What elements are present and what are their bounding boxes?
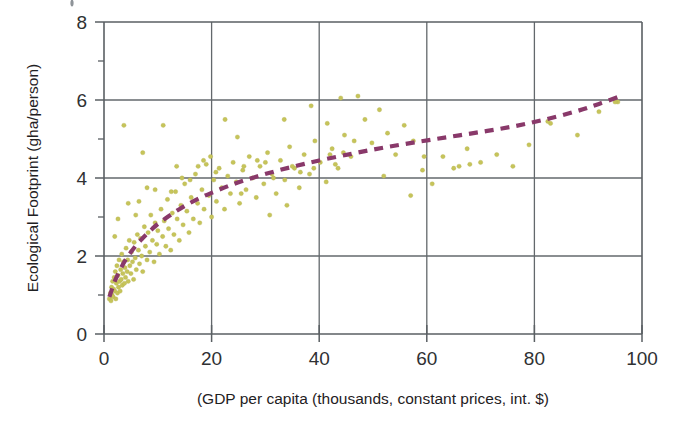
scatter-point (200, 188, 204, 192)
scatter-point (146, 230, 150, 234)
scatter-point (452, 166, 456, 170)
x-tick-label: 40 (309, 348, 330, 369)
scatter-point (136, 248, 140, 252)
scatter-point (312, 166, 316, 170)
scatter-chart-canvas: 020406080100 02468 (GDP per capita (thou… (0, 0, 679, 427)
scatter-point (119, 277, 123, 281)
scatter-point (382, 174, 386, 178)
scatter-point (247, 154, 251, 158)
scatter-point (422, 154, 426, 158)
scatter-point (137, 262, 141, 266)
scatter-point (128, 264, 132, 268)
scatter-point (134, 267, 138, 271)
scatter-point (457, 164, 461, 168)
scatter-point (254, 195, 258, 199)
scatter-point (177, 238, 181, 242)
scatter-point (148, 250, 152, 254)
scatter-point (185, 209, 189, 213)
scatter-point (356, 94, 360, 98)
y-tick-label: 6 (76, 90, 87, 111)
scatter-point (114, 297, 118, 301)
scatter-point (153, 188, 157, 192)
scatter-point (126, 279, 130, 283)
scatter-point (132, 240, 136, 244)
y-axis-title: Ecological Footprint (gha/person) (24, 64, 41, 292)
scatter-point (131, 277, 135, 281)
scatter-point (127, 238, 131, 242)
scatter-point (180, 176, 184, 180)
scatter-point (140, 254, 144, 258)
scatter-point (223, 117, 227, 121)
x-tick-label: 20 (201, 348, 222, 369)
chart-figure: 020406080100 02468 (GDP per capita (thou… (0, 0, 679, 427)
scatter-point (133, 256, 137, 260)
scatter-point (597, 110, 601, 114)
scatter-point (198, 221, 202, 225)
scatter-point (115, 264, 119, 268)
scatter-point (204, 162, 208, 166)
scatter-point (402, 123, 406, 127)
scatter-point (231, 160, 235, 164)
scatter-point (228, 191, 232, 195)
scatter-point (129, 271, 133, 275)
scatter-point (134, 213, 138, 217)
scatter-point (298, 170, 302, 174)
scatter-point (263, 160, 267, 164)
scatter-point (188, 178, 192, 182)
scatter-point (169, 248, 173, 252)
scatter-point (141, 269, 145, 273)
scatter-point (156, 228, 160, 232)
scatter-point (324, 180, 328, 184)
scatter-point (309, 104, 313, 108)
y-tick-label: 4 (76, 168, 87, 189)
scatter-point (117, 258, 121, 262)
scatter-point (352, 139, 356, 143)
scatter-point (393, 152, 397, 156)
scatter-point (339, 96, 343, 100)
x-axis-title: (GDP per capita (thousands, constant pri… (197, 390, 549, 407)
scatter-point (173, 189, 177, 193)
scatter-point (511, 164, 515, 168)
scatter-point (265, 150, 269, 154)
scatter-point (193, 172, 197, 176)
scatter-point (196, 164, 200, 168)
scatter-point (278, 158, 282, 162)
scatter-point (409, 193, 413, 197)
scatter-point (118, 289, 122, 293)
scatter-point (226, 174, 230, 178)
scatter-point (313, 139, 317, 143)
scatter-point (161, 123, 165, 127)
scatter-point (307, 172, 311, 176)
scatter-point (208, 154, 212, 158)
scatter-point (342, 133, 346, 137)
scatter-point (370, 141, 374, 145)
scatter-point (363, 117, 367, 121)
scatter-point (420, 168, 424, 172)
scatter-point (122, 123, 126, 127)
scatter-point (137, 199, 141, 203)
y-tick-label: 8 (76, 12, 87, 33)
y-tick-label: 2 (76, 246, 87, 267)
scatter-point (235, 135, 239, 139)
scatter-point (468, 162, 472, 166)
scatter-point (209, 215, 213, 219)
scatter-point (285, 203, 289, 207)
scatter-point (242, 164, 246, 168)
scatter-point (283, 178, 287, 182)
scatter-point (187, 230, 191, 234)
scatter-point (527, 143, 531, 147)
scatter-point (145, 258, 149, 262)
scatter-point (274, 191, 278, 195)
scatter-point (258, 164, 262, 168)
scatter-point (268, 213, 272, 217)
scatter-point (302, 152, 306, 156)
scatter-point (214, 170, 218, 174)
scatter-point (141, 150, 145, 154)
scatter-point (175, 217, 179, 221)
scatter-point (287, 145, 291, 149)
scatter-point (165, 197, 169, 201)
scatter-point (120, 252, 124, 256)
x-tick-label: 100 (626, 348, 658, 369)
scatter-point (202, 207, 206, 211)
scatter-point (385, 131, 389, 135)
